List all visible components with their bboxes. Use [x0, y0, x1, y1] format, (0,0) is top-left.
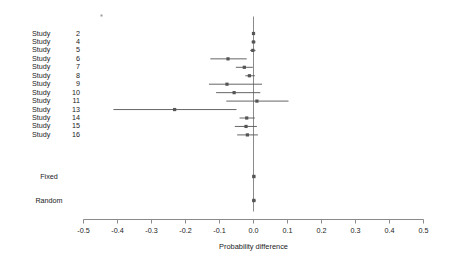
x-tick-label: -0.2 — [179, 227, 191, 234]
x-tick-label: 0.2 — [317, 227, 327, 234]
estimate-marker — [255, 100, 258, 103]
x-tick-label: -0.5 — [77, 227, 89, 234]
x-tick-label: 0.3 — [351, 227, 361, 234]
estimate-marker — [244, 125, 247, 128]
estimate-marker — [173, 108, 176, 111]
summary-estimate-marker — [252, 199, 255, 202]
forest-row — [240, 116, 255, 119]
forest-row — [237, 133, 258, 136]
estimate-marker — [252, 40, 255, 43]
summary-row — [252, 175, 255, 178]
estimate-marker — [252, 32, 255, 35]
x-tick-label: 0.1 — [283, 227, 293, 234]
estimate-marker — [233, 91, 236, 94]
x-tick-label: 0.4 — [385, 227, 395, 234]
x-tick-label: 0.0 — [249, 227, 259, 234]
forest-row — [252, 32, 255, 35]
estimate-marker — [251, 49, 254, 52]
forest-row — [226, 100, 288, 103]
estimate-marker — [226, 57, 229, 60]
forest-plot-figure: Study2Study4Study5Study6Study7Study8Stud… — [0, 0, 455, 267]
forest-row — [250, 49, 255, 52]
summary-row — [252, 199, 255, 202]
estimate-marker — [248, 74, 251, 77]
forest-row — [251, 40, 255, 43]
forest-row — [209, 83, 262, 86]
stray-mark — [101, 15, 103, 17]
x-tick-label: -0.3 — [145, 227, 157, 234]
forest-row — [236, 66, 253, 69]
x-tick-label: -0.4 — [111, 227, 123, 234]
x-tick-label: 0.5 — [419, 227, 429, 234]
x-tick-label: -0.1 — [213, 227, 225, 234]
forest-row — [113, 108, 236, 111]
x-axis-title: Probability difference — [219, 243, 288, 250]
summary-estimate-marker — [252, 175, 255, 178]
estimate-marker — [245, 116, 248, 119]
estimate-marker — [225, 83, 228, 86]
estimate-marker — [243, 66, 246, 69]
estimate-marker — [246, 133, 249, 136]
forest-row — [210, 57, 246, 60]
